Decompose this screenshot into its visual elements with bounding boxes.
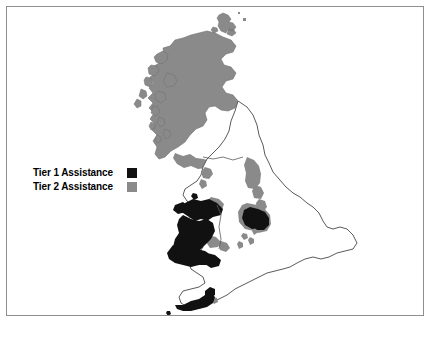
- map-figure: Tier 1 Assistance Tier 2 Assistance: [0, 0, 440, 338]
- figure-frame: [6, 6, 424, 316]
